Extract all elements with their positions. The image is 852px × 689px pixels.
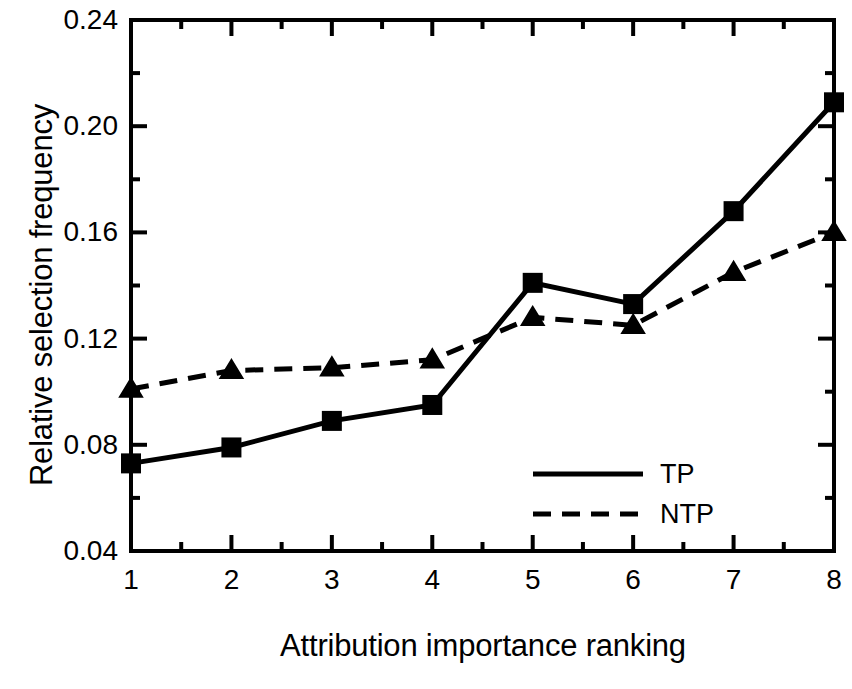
axis-tick-marks xyxy=(131,20,834,551)
chart-figure: Relative selection frequency 0.240.200.1… xyxy=(0,0,852,689)
data-point-marker xyxy=(323,412,341,430)
data-point-marker xyxy=(723,262,745,280)
data-point-marker xyxy=(825,93,843,111)
x-tick-label: 7 xyxy=(704,566,764,594)
x-tick-label: 3 xyxy=(302,566,362,594)
x-axis-tick-labels: 12345678 xyxy=(0,566,852,606)
legend-label-tp: TP xyxy=(660,461,695,488)
data-point-marker xyxy=(624,295,642,313)
legend-line-samples xyxy=(533,474,643,514)
data-series-layer xyxy=(120,93,845,472)
x-tick-label: 8 xyxy=(804,566,852,594)
data-point-marker xyxy=(122,454,140,472)
series-ntp xyxy=(120,222,845,397)
x-tick-label: 6 xyxy=(603,566,663,594)
data-point-marker xyxy=(220,360,242,378)
legend-label-ntp: NTP xyxy=(660,501,714,528)
series-tp xyxy=(122,93,843,472)
x-tick-label: 1 xyxy=(101,566,161,594)
data-point-marker xyxy=(524,274,542,292)
x-tick-label: 2 xyxy=(201,566,261,594)
x-axis-title: Attribution importance ranking xyxy=(130,628,836,664)
series-line-ntp xyxy=(131,232,834,389)
data-point-marker xyxy=(725,202,743,220)
axis-frame xyxy=(131,20,834,551)
x-tick-label: 4 xyxy=(402,566,462,594)
x-tick-label: 5 xyxy=(503,566,563,594)
data-point-marker xyxy=(222,438,240,456)
series-line-tp xyxy=(131,102,834,463)
data-point-marker xyxy=(423,396,441,414)
